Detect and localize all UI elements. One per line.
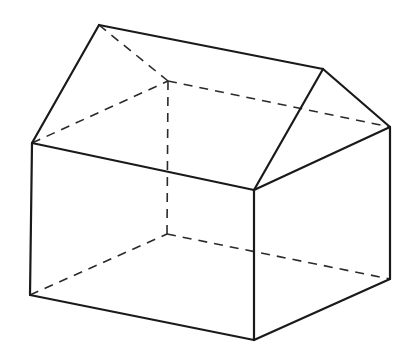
hidden-edge-LK xyxy=(167,234,390,279)
edge-DF xyxy=(30,143,32,295)
edge-BC xyxy=(323,69,390,127)
hidden-edge-AH xyxy=(99,25,168,81)
hidden-edge-DH xyxy=(32,81,168,143)
edge-GK xyxy=(254,279,390,340)
edge-AD xyxy=(32,25,99,143)
edge-EC xyxy=(254,127,390,190)
hidden-edge-HL xyxy=(167,81,168,234)
house-prism-diagram xyxy=(0,0,412,363)
hidden-edges xyxy=(30,25,390,295)
edge-BE xyxy=(254,69,323,190)
hidden-edge-HC xyxy=(168,81,390,127)
edge-AB xyxy=(99,25,323,69)
edge-DE xyxy=(32,143,254,190)
hidden-edge-FL xyxy=(30,234,167,295)
visible-edges xyxy=(30,25,390,340)
edge-FG xyxy=(30,295,254,340)
